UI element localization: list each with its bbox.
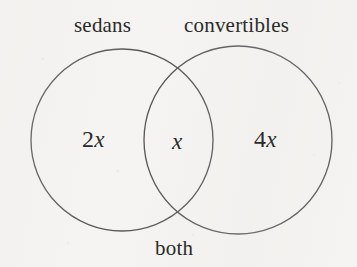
intersection-annotation-both: both [155, 238, 193, 259]
region-value-sedans-only: 2x [82, 127, 105, 151]
region-coefficient: 2 [82, 126, 94, 152]
region-variable: x [172, 129, 183, 154]
region-variable: x [94, 127, 105, 152]
circle-sedans [31, 49, 213, 231]
region-variable: x [266, 127, 277, 152]
venn-diagram-figure: sedans convertibles both 2x x 4x [0, 0, 357, 267]
set-label-sedans: sedans [74, 15, 131, 36]
set-label-convertibles: convertibles [184, 15, 289, 36]
region-value-intersection: x [172, 129, 183, 153]
region-value-convertibles-only: 4x [254, 127, 277, 151]
region-coefficient: 4 [254, 126, 266, 152]
